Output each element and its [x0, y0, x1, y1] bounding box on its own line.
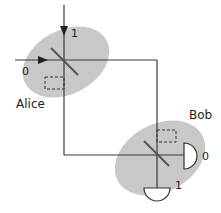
bob-label: Bob	[189, 108, 212, 122]
alice-port-1-label: 1	[71, 27, 78, 40]
quantum-interferometer-diagram: 1 0 Alice Bob 0 1	[0, 0, 221, 213]
detector-1-label: 1	[175, 179, 182, 192]
alice-label: Alice	[16, 97, 45, 111]
detector-0-label: 0	[202, 150, 209, 163]
detector-1-icon	[144, 188, 170, 201]
alice-port-0-label: 0	[22, 65, 29, 78]
